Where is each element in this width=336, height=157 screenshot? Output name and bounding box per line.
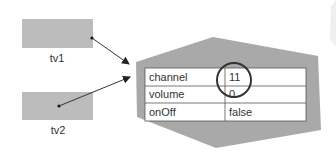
variable-box-tv1 xyxy=(22,19,93,48)
partial-shape xyxy=(330,0,336,46)
variable-label-tv1: tv1 xyxy=(50,52,65,64)
field-key: volume xyxy=(149,88,184,100)
field-key: onOff xyxy=(149,106,177,118)
reference-arrow-tv2 xyxy=(59,77,130,106)
field-value: 0 xyxy=(229,88,235,100)
reference-diagram: tv1 tv2 channel 11 volume 0 onOff false xyxy=(0,0,336,157)
field-value: false xyxy=(229,106,252,118)
field-value: 11 xyxy=(229,71,240,83)
variable-label-tv2: tv2 xyxy=(51,124,66,136)
field-key: channel xyxy=(149,71,188,83)
reference-arrow-tv1 xyxy=(92,38,129,64)
